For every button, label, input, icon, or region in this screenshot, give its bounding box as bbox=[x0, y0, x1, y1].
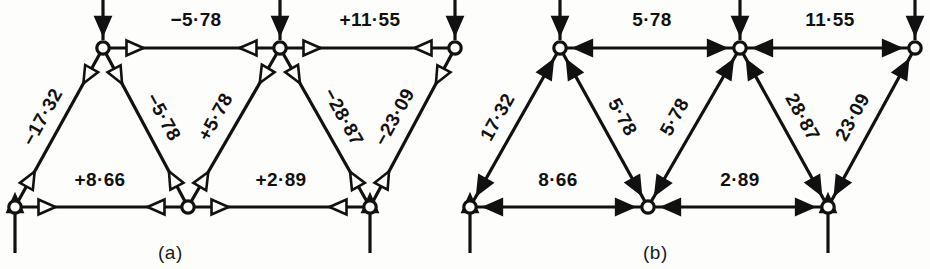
member-arrowhead bbox=[285, 65, 300, 83]
member-arrowhead bbox=[330, 200, 347, 215]
member-b-top-left-chord[interactable]: 5·78 bbox=[560, 9, 740, 55]
member-force-label: +11·55 bbox=[339, 9, 400, 30]
member-arrowhead bbox=[616, 200, 633, 215]
joint-b-node-top-right[interactable] bbox=[909, 42, 921, 54]
joint-a-node-top-left[interactable] bbox=[97, 42, 109, 54]
member-arrowhead bbox=[240, 41, 257, 56]
load-top-mid bbox=[273, 0, 288, 40]
load-top-mid bbox=[733, 0, 748, 40]
member-arrowhead bbox=[415, 41, 432, 56]
member-arrowhead bbox=[39, 200, 56, 215]
panel-b: 5·7811·558·662·8917·325·785·7828·8723·09 bbox=[463, 0, 923, 253]
member-arrowhead bbox=[108, 65, 123, 83]
member-arrowhead bbox=[655, 176, 670, 194]
member-arrowhead bbox=[212, 200, 229, 215]
member-force-label: −5·78 bbox=[170, 9, 221, 30]
member-arrowhead bbox=[148, 200, 165, 215]
joint-b-node-top-left[interactable] bbox=[554, 42, 566, 54]
member-arrowhead bbox=[193, 172, 208, 190]
member-a-top-left-chord[interactable]: −5·78 bbox=[103, 9, 280, 55]
member-force-label: 5·78 bbox=[632, 9, 672, 30]
joint-a-node-top-right[interactable] bbox=[449, 42, 461, 54]
force-arrowhead bbox=[96, 17, 111, 34]
member-arrowhead bbox=[127, 41, 144, 56]
member-arrowhead bbox=[835, 176, 850, 194]
member-b-bottom-left-chord[interactable]: 8·66 bbox=[470, 169, 648, 214]
member-force-label: 11·55 bbox=[805, 9, 855, 30]
joint-b-node-top-mid[interactable] bbox=[734, 42, 746, 54]
member-b-top-right-chord[interactable]: 11·55 bbox=[740, 9, 915, 55]
member-force-label: 5·78 bbox=[604, 94, 642, 139]
joint-a-node-top-mid[interactable] bbox=[274, 42, 286, 54]
member-arrowhead bbox=[718, 61, 733, 79]
member-arrowhead bbox=[567, 61, 582, 79]
member-arrowhead bbox=[708, 41, 725, 56]
member-arrowhead bbox=[755, 41, 772, 56]
load-top-right bbox=[908, 0, 923, 40]
joint-a-node-bottom-right[interactable] bbox=[364, 201, 376, 213]
member-a-top-right-chord[interactable]: +11·55 bbox=[280, 9, 455, 55]
panel-a: −5·78+11·55+8·66+2·89−17·32−5·78+5·78−28… bbox=[8, 0, 463, 253]
member-arrowhead bbox=[883, 41, 900, 56]
joint-b-node-bottom-left[interactable] bbox=[464, 201, 476, 213]
member-arrowhead bbox=[626, 176, 641, 194]
force-arrowhead bbox=[273, 17, 288, 34]
member-a-bottom-left-chord[interactable]: +8·66 bbox=[15, 169, 188, 214]
load-top-right bbox=[448, 0, 463, 40]
member-arrowhead bbox=[796, 200, 813, 215]
member-arrowhead bbox=[436, 65, 451, 83]
member-arrowhead bbox=[538, 61, 553, 79]
member-arrowhead bbox=[806, 176, 821, 194]
member-force-label: +8·66 bbox=[74, 169, 125, 190]
member-force-label: +2·89 bbox=[255, 169, 306, 190]
member-arrowhead bbox=[477, 176, 492, 194]
member-arrowhead bbox=[304, 41, 321, 56]
member-arrowhead bbox=[893, 61, 908, 79]
member-arrowhead bbox=[575, 41, 592, 56]
member-arrowhead bbox=[83, 65, 98, 83]
member-arrowhead bbox=[350, 172, 365, 190]
member-arrowhead bbox=[485, 200, 502, 215]
force-arrowhead bbox=[908, 17, 923, 34]
member-b-bottom-right-chord[interactable]: 2·89 bbox=[648, 169, 828, 214]
member-arrowhead bbox=[375, 171, 390, 189]
member-force-label: −23·09 bbox=[370, 85, 418, 149]
joint-b-node-bottom-mid[interactable] bbox=[642, 201, 654, 213]
member-b-diagonal-5[interactable]: 23·09 bbox=[828, 48, 915, 207]
panel-a-caption: (a) bbox=[158, 242, 183, 264]
panel-b-caption: (b) bbox=[643, 242, 668, 264]
joint-b-node-bottom-right[interactable] bbox=[822, 201, 834, 213]
member-force-label: 17·32 bbox=[476, 90, 519, 144]
force-arrowhead bbox=[553, 17, 568, 34]
member-a-diagonal-5[interactable]: −23·09 bbox=[370, 48, 455, 207]
member-arrowhead bbox=[169, 171, 184, 189]
load-top-left bbox=[96, 0, 111, 40]
joint-a-node-bottom-left[interactable] bbox=[9, 201, 21, 213]
member-force-label: 2·89 bbox=[720, 169, 760, 190]
load-top-left bbox=[553, 0, 568, 40]
member-a-bottom-right-chord[interactable]: +2·89 bbox=[188, 169, 370, 214]
member-force-label: 8·66 bbox=[538, 169, 578, 190]
member-arrowhead bbox=[747, 61, 762, 79]
truss-canvas: −5·78+11·55+8·66+2·89−17·32−5·78+5·78−28… bbox=[0, 0, 930, 269]
member-arrowhead bbox=[663, 200, 680, 215]
member-force-label: 5·78 bbox=[656, 94, 694, 139]
joint-a-node-bottom-mid[interactable] bbox=[182, 201, 194, 213]
member-arrowhead bbox=[20, 172, 35, 190]
member-force-label: −17·32 bbox=[18, 85, 66, 149]
member-force-label: −28·87 bbox=[319, 85, 367, 149]
force-arrowhead bbox=[733, 17, 748, 34]
force-arrowhead bbox=[448, 17, 463, 34]
member-arrowhead bbox=[260, 65, 275, 83]
truss-figure: −5·78+11·55+8·66+2·89−17·32−5·78+5·78−28… bbox=[0, 0, 930, 269]
